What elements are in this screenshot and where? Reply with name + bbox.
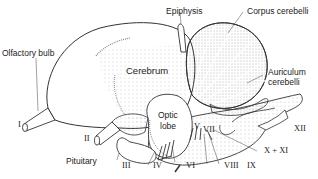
nerve-label-vii: VII xyxy=(203,125,215,134)
nerve-label-viii: VIII xyxy=(224,161,239,170)
nerve-vi xyxy=(175,165,180,172)
nerve-label-vi: VI xyxy=(186,161,195,170)
label-auriculum-line2: cerebelli xyxy=(268,78,300,87)
nerve-label-iii: III xyxy=(122,161,131,170)
nerve-label-x-xi: X + XI xyxy=(264,146,288,155)
nerve-label-ix: IX xyxy=(247,161,256,170)
corpus-cerebelli-shape xyxy=(186,23,267,109)
nerve-label-v: V xyxy=(194,122,200,131)
label-optic-line1: Optic xyxy=(158,111,178,120)
nerve-label-xii: XII xyxy=(294,124,306,133)
nerve-label-ii: II xyxy=(84,134,90,143)
label-optic-line2: lobe xyxy=(160,122,176,131)
brain-diagram: Olfactory bulb Epiphysis Corpus cerebell… xyxy=(0,0,318,179)
label-cerebrum: Cerebrum xyxy=(126,66,168,76)
label-corpus-cerebelli: Corpus cerebelli xyxy=(247,7,308,16)
label-olfactory-bulb: Olfactory bulb xyxy=(2,49,54,58)
label-epiphysis: Epiphysis xyxy=(166,7,202,16)
nerve-label-iv: IV xyxy=(153,161,162,170)
nerve-label-i: I xyxy=(18,120,21,129)
label-pituitary: Pituitary xyxy=(66,157,97,166)
label-auriculum-line1: Auriculum xyxy=(268,68,306,77)
